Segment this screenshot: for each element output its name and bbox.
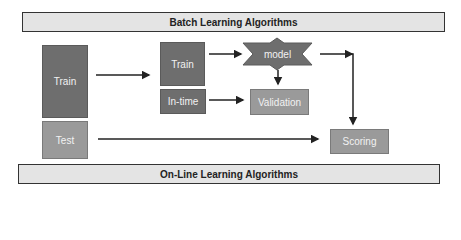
scoring-box: Scoring	[330, 129, 389, 154]
arrow-model-to-scoring	[320, 54, 353, 124]
train-full-label: Train	[54, 76, 76, 87]
test-box: Test	[42, 121, 88, 159]
scoring-label: Scoring	[343, 136, 377, 147]
online-learning-label: On-Line Learning Algorithms	[160, 169, 298, 180]
validation-box: Validation	[250, 89, 309, 115]
train-split-label: Train	[171, 59, 193, 70]
online-learning-banner: On-Line Learning Algorithms	[18, 164, 440, 184]
in-time-label: In-time	[168, 96, 199, 107]
model-node: model	[253, 43, 302, 65]
in-time-box: In-time	[160, 89, 206, 114]
train-split-box: Train	[160, 42, 205, 86]
train-full-box: Train	[42, 45, 88, 118]
model-label: model	[264, 49, 291, 60]
validation-label: Validation	[258, 97, 301, 108]
test-label: Test	[56, 135, 74, 146]
